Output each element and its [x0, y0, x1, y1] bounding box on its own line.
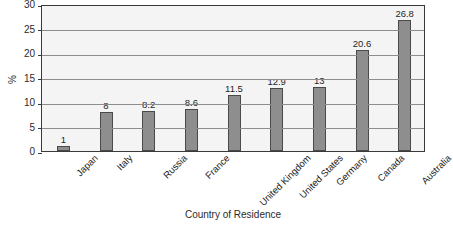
bar-value-label: 13 — [299, 76, 339, 86]
bar — [356, 50, 369, 151]
y-axis-tickmark — [38, 104, 42, 105]
x-axis-category-labels: JapanItalyRussiaFranceUnited KingdomUnit… — [41, 153, 425, 209]
y-axis-tickmark — [38, 79, 42, 80]
bar — [57, 146, 70, 151]
bar — [270, 88, 283, 151]
gridline — [42, 30, 424, 31]
x-axis-category-label: Japan — [75, 153, 100, 178]
y-axis-tick-label: 25 — [0, 25, 39, 35]
x-axis-category-label: Australia — [419, 153, 452, 186]
gridline — [42, 79, 424, 80]
y-axis-tick-label: 15 — [0, 74, 39, 84]
bar-value-label: 8 — [86, 101, 126, 111]
y-axis-tickmark — [38, 55, 42, 56]
y-axis-tick-label: 10 — [0, 98, 39, 108]
x-axis-title: Country of Residence — [41, 209, 425, 220]
bar-value-label: 11.5 — [214, 84, 254, 94]
bar — [185, 109, 198, 151]
gridline — [42, 104, 424, 105]
y-axis-tick-label: 5 — [0, 123, 39, 133]
x-axis-category-label: Italy — [115, 153, 134, 172]
y-axis-tickmark — [38, 6, 42, 7]
x-axis-category-label: France — [204, 153, 232, 181]
y-axis-tick-label: 20 — [0, 49, 39, 59]
gridline — [42, 55, 424, 56]
bar-value-label: 1 — [43, 135, 83, 145]
x-axis-category-label: Russia — [161, 153, 189, 181]
bar — [142, 111, 155, 151]
y-axis-tickmark — [38, 30, 42, 31]
bar — [100, 112, 113, 151]
bar — [313, 87, 326, 151]
plot-area: 188.28.611.512.91320.626.8 — [41, 5, 425, 152]
bar-value-label: 8.2 — [129, 100, 169, 110]
y-axis-tickmark — [38, 128, 42, 129]
bar — [398, 20, 411, 151]
bar-value-label: 20.6 — [342, 39, 382, 49]
y-axis-tick-label: 0 — [0, 147, 39, 157]
y-axis-tick-labels: 302520151050 — [0, 0, 39, 226]
bar-value-label: 26.8 — [385, 9, 425, 19]
gridline — [42, 128, 424, 129]
x-axis-category-label: Canada — [376, 153, 407, 184]
y-axis-tick-label: 30 — [0, 0, 39, 10]
